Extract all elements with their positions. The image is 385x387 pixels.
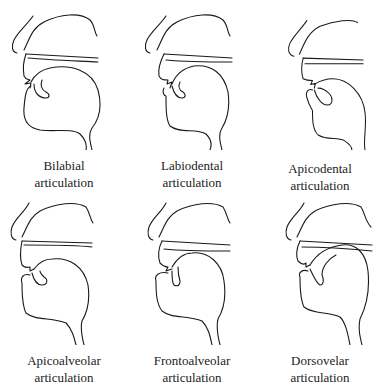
caption-line-1: Dorsovelar <box>256 352 384 369</box>
caption-line-2: articulation <box>256 369 384 386</box>
caption-line-1: Apicodental <box>256 160 384 177</box>
labiodental-vocal-tract-diagram <box>128 0 256 150</box>
apicoalveolar-vocal-tract-diagram <box>0 195 128 345</box>
caption-line-2: articulation <box>0 369 128 386</box>
caption-line-1: Labiodental <box>128 157 256 174</box>
caption-bilabial: Bilabial articulation <box>0 157 128 191</box>
caption-frontoalveolar: Frontoalveolar articulation <box>128 352 256 386</box>
apicodental-vocal-tract-diagram <box>256 0 384 150</box>
panel-bilabial: Bilabial articulation <box>0 0 128 193</box>
caption-line-2: articulation <box>256 177 384 194</box>
bilabial-vocal-tract-diagram <box>0 0 128 150</box>
caption-line-1: Bilabial <box>0 157 128 174</box>
dorsovelar-vocal-tract-diagram <box>256 195 384 345</box>
caption-line-2: articulation <box>0 174 128 191</box>
panel-labiodental: Labiodental articulation <box>128 0 256 193</box>
panel-frontoalveolar: Frontoalveolar articulation <box>128 195 256 387</box>
caption-apicodental: Apicodental articulation <box>256 160 384 194</box>
caption-apicoalveolar: Apicoalveolar articulation <box>0 352 128 386</box>
caption-line-1: Apicoalveolar <box>0 352 128 369</box>
caption-line-2: articulation <box>128 369 256 386</box>
frontoalveolar-vocal-tract-diagram <box>128 195 256 345</box>
caption-line-1: Frontoalveolar <box>128 352 256 369</box>
panel-dorsovelar: Dorsovelar articulation <box>256 195 384 387</box>
caption-labiodental: Labiodental articulation <box>128 157 256 191</box>
panel-apicoalveolar: Apicoalveolar articulation <box>0 195 128 387</box>
caption-line-2: articulation <box>128 174 256 191</box>
panel-apicodental: Apicodental articulation <box>256 0 384 193</box>
caption-dorsovelar: Dorsovelar articulation <box>256 352 384 386</box>
